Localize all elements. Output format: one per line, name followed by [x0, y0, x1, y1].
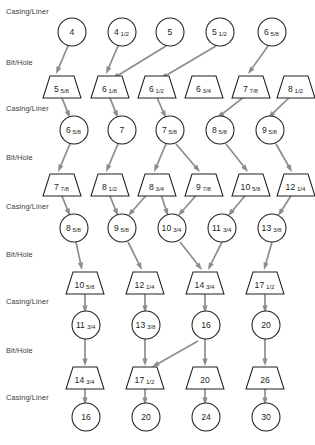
- node-bit[interactable]: 61/8: [91, 76, 129, 98]
- node-bit[interactable]: 63/4: [185, 76, 223, 98]
- row-label-casing: Casing/Liner: [6, 202, 49, 211]
- row-label-bit: Bit/Hole: [6, 346, 33, 355]
- node-bit[interactable]: 121/4: [126, 272, 164, 294]
- node-bit[interactable]: 97/8: [185, 174, 223, 196]
- row-label-casing: Casing/Liner: [6, 297, 49, 306]
- node-casing[interactable]: 5: [156, 18, 184, 46]
- edge-arrow: [276, 144, 292, 172]
- node-value-whole: 8: [102, 182, 107, 192]
- edge-line: [76, 242, 81, 264]
- node-value-fraction: 3/4: [223, 226, 232, 233]
- node-value-fraction: 3/4: [155, 185, 164, 192]
- node-value-whole: 6: [66, 125, 71, 135]
- node-casing[interactable]: 30: [252, 403, 280, 431]
- node-casing[interactable]: 16: [72, 403, 100, 431]
- edge-arrow: [142, 339, 147, 366]
- node-value-whole: 8: [212, 125, 217, 135]
- node-casing[interactable]: 4: [58, 18, 86, 46]
- node-value-whole: 20: [200, 375, 210, 385]
- node-casing[interactable]: 85/8: [206, 116, 234, 144]
- node-value-fraction: 3/8: [147, 323, 156, 330]
- edge-line: [266, 242, 272, 264]
- node-casing[interactable]: 113/4: [72, 311, 100, 339]
- edge-arrowhead: [154, 164, 159, 172]
- node-casing[interactable]: 95/8: [256, 116, 284, 144]
- node-bit[interactable]: 81/2: [91, 174, 129, 196]
- edge-arrowhead: [56, 66, 61, 74]
- node-value-fraction: 1/4: [146, 283, 155, 290]
- edge-arrowhead: [58, 164, 63, 172]
- node-bit[interactable]: 61/2: [138, 76, 176, 98]
- node-bit[interactable]: 105/8: [232, 174, 270, 196]
- edge-line: [117, 46, 166, 76]
- node-value-whole: 6: [102, 84, 107, 94]
- edge-line: [128, 242, 139, 264]
- node-value-whole: 8: [149, 182, 154, 192]
- edge-line: [252, 46, 268, 69]
- node-casing[interactable]: 65/8: [258, 18, 286, 46]
- node-value-fraction: 7/8: [60, 185, 69, 192]
- node-casing[interactable]: 24: [192, 403, 220, 431]
- node-value-fraction: 1/4: [297, 185, 306, 192]
- node-casing[interactable]: 20: [252, 311, 280, 339]
- node-casing[interactable]: 103/4: [158, 214, 186, 242]
- node-value-whole: 17: [135, 375, 145, 385]
- node-casing[interactable]: 51/2: [206, 18, 234, 46]
- node-value-fraction: 1/8: [108, 87, 117, 94]
- node-bit[interactable]: 77/8: [43, 174, 81, 196]
- node-value-whole: 14: [75, 375, 85, 385]
- node-casing[interactable]: 95/8: [108, 214, 136, 242]
- node-bit[interactable]: 105/8: [66, 272, 104, 294]
- row-label-bit: Bit/Hole: [6, 58, 33, 67]
- node-bit[interactable]: 143/4: [186, 272, 224, 294]
- edge-line: [108, 144, 118, 166]
- node-value-fraction: 1/2: [146, 378, 155, 385]
- edge-line: [108, 46, 118, 68]
- node-bit[interactable]: 77/8: [232, 76, 270, 98]
- edge-arrowhead: [136, 262, 142, 270]
- node-casing[interactable]: 7: [108, 116, 136, 144]
- edge-arrowhead: [78, 262, 83, 270]
- node-bit[interactable]: 26: [246, 367, 284, 389]
- node-casing[interactable]: 85/8: [60, 214, 88, 242]
- edge-line: [211, 242, 222, 264]
- casing-bit-size-diagram: Casing/Liner441/2551/265/8Bit/Hole55/861…: [0, 0, 315, 445]
- edge-arrow: [176, 144, 200, 172]
- node-value-fraction: 5/8: [72, 226, 81, 233]
- node-casing[interactable]: 41/2: [108, 18, 136, 46]
- node-value-fraction: 3/4: [173, 226, 182, 233]
- edge-arrowhead: [106, 164, 111, 172]
- edge-arrow: [154, 144, 166, 172]
- node-value-fraction: 1/2: [294, 87, 303, 94]
- node-casing[interactable]: 133/8: [132, 311, 160, 339]
- node-bit[interactable]: 55/8: [43, 76, 81, 98]
- node-casing[interactable]: 113/4: [208, 214, 236, 242]
- node-bit[interactable]: 143/4: [66, 367, 104, 389]
- node-casing[interactable]: 16: [192, 311, 220, 339]
- node-bit[interactable]: 121/4: [277, 174, 315, 196]
- node-bit[interactable]: 81/2: [277, 76, 315, 98]
- edge-arrow: [226, 144, 248, 172]
- node-value-whole: 4: [114, 27, 119, 37]
- diagram-row-casing: Casing/Liner113/4133/81620: [6, 297, 280, 339]
- node-value-fraction: 5/8: [252, 185, 261, 192]
- node-bit[interactable]: 171/2: [126, 367, 164, 389]
- node-bit[interactable]: 83/4: [138, 174, 176, 196]
- edge-arrowhead: [142, 359, 147, 367]
- node-casing[interactable]: 75/8: [156, 116, 184, 144]
- row-label-bit: Bit/Hole: [6, 250, 33, 259]
- node-value-whole: 10: [241, 182, 251, 192]
- edge-arrowhead: [262, 359, 267, 367]
- node-value-fraction: 5/8: [270, 30, 279, 37]
- node-value-whole: 7: [162, 125, 167, 135]
- node-value-whole: 6: [149, 84, 154, 94]
- node-casing[interactable]: 65/8: [60, 116, 88, 144]
- node-casing[interactable]: 20: [132, 403, 160, 431]
- node-bit[interactable]: 171/2: [246, 272, 284, 294]
- edge-arrow: [208, 242, 222, 270]
- node-bit[interactable]: 20: [186, 367, 224, 389]
- node-value-fraction: 5/8: [60, 87, 69, 94]
- edge-arrowhead: [106, 66, 111, 74]
- node-value-fraction: 5/8: [72, 128, 81, 135]
- node-casing[interactable]: 133/8: [258, 214, 286, 242]
